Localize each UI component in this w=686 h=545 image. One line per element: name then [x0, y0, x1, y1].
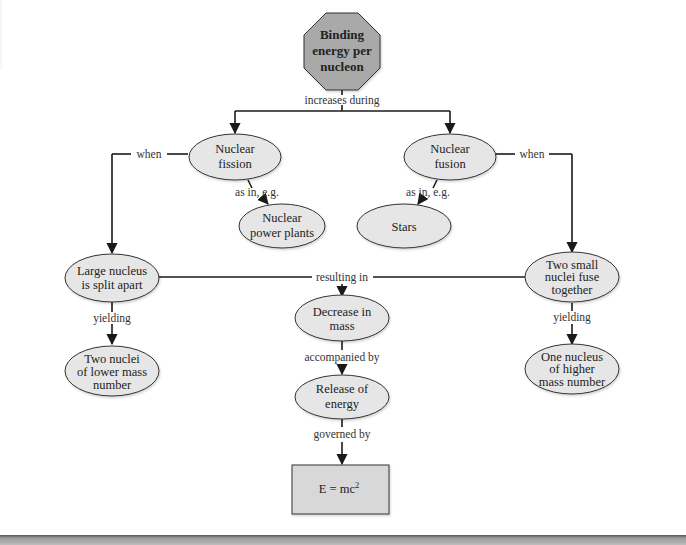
edge-label-increases-during: increases during: [304, 94, 379, 107]
node-large-nucleus-line2: is split apart: [81, 278, 143, 292]
emc2-base: E = mc: [319, 482, 356, 496]
emc2-superscript: 2: [355, 480, 359, 490]
edge-fission-example-b: [262, 197, 268, 204]
node-stars-label: Stars: [392, 220, 417, 234]
node-large-nucleus-line1: Large nucleus: [77, 264, 147, 278]
edge-label-yielding-right: yielding: [553, 311, 591, 324]
edge-label-accompanied-by: accompanied by: [304, 351, 379, 364]
node-nuclear-fission-line1: Nuclear: [215, 142, 255, 156]
edge-label-when-right: when: [520, 148, 545, 160]
node-power-plants-line2: power plants: [250, 226, 314, 240]
node-small-nuclei-line3: together: [552, 283, 594, 297]
edge-label-governed-by: governed by: [313, 428, 370, 441]
node-binding-energy-line2: energy per: [312, 43, 372, 58]
edge-fusion-example-b: [418, 197, 423, 204]
node-nuclear-fusion-line2: fusion: [434, 157, 466, 171]
node-binding-energy-line1: Binding: [320, 27, 365, 42]
page-bottom-edge: [0, 535, 686, 545]
edge-label-when-left: when: [137, 148, 162, 160]
node-decrease-line1: Decrease in: [313, 305, 372, 319]
node-release-line2: energy: [325, 397, 360, 411]
edge-label-resulting-in: resulting in: [316, 271, 368, 284]
node-nuclear-fission-line2: fission: [218, 157, 252, 171]
node-lower-mass-line2: of lower mass: [77, 365, 147, 379]
edge-label-as-in-fusion: as in, e.g.: [406, 186, 450, 199]
node-nuclear-fusion-line1: Nuclear: [430, 142, 470, 156]
node-power-plants-line1: Nuclear: [262, 211, 302, 225]
concept-map-canvas: Binding energy per nucleon Nuclear fissi…: [0, 0, 686, 545]
node-lower-mass-line3: number: [93, 378, 132, 392]
edge-label-as-in-fission: as in, e.g.: [235, 186, 279, 199]
node-binding-energy-line3: nucleon: [320, 59, 364, 74]
node-higher-mass-line3: mass number: [539, 375, 606, 389]
node-release-line1: Release of: [316, 382, 369, 396]
node-small-nuclei-line2: nuclei fuse: [545, 270, 600, 284]
node-lower-mass-line1: Two nuclei: [84, 352, 140, 366]
node-higher-mass-line2: of higher: [549, 362, 595, 376]
edge-label-yielding-left: yielding: [93, 312, 131, 325]
concept-map-svg: Binding energy per nucleon Nuclear fissi…: [0, 0, 686, 545]
node-decrease-line2: mass: [330, 319, 355, 333]
node-emc2-formula: E = mc2: [319, 480, 359, 496]
